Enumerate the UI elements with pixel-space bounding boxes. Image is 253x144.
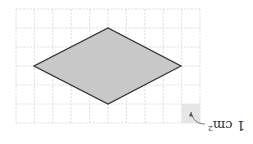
grid-diagram: 1 cm2 [0,0,253,144]
rhombus [34,28,181,104]
unit-label: 1 cm2 [208,118,245,133]
figure: 1 cm2 [0,0,253,144]
